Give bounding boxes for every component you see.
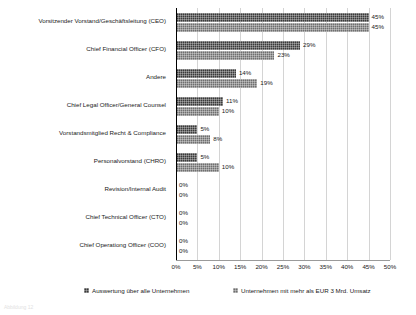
bar-value-label: 19% (257, 78, 272, 88)
bar-value-label: 0% (176, 246, 188, 256)
bar-group-series-0: 0% (176, 237, 390, 246)
legend-item-series-1: Unternehmen mit mehr als EUR 3 Mrd. Umsa… (233, 286, 371, 296)
bar-value-label: 45% (369, 22, 384, 32)
bar-row: 0%0% (176, 207, 390, 235)
bar-value-label: 11% (223, 96, 238, 106)
bar-value-label: 8% (210, 134, 222, 144)
bar-rows: 45%45%29%23%14%19%11%10%5%8%5%10%0%0%0%0… (176, 8, 390, 260)
bar (176, 23, 369, 32)
bar-value-label: 0% (176, 190, 188, 200)
bar-group-series-1: 10% (176, 107, 390, 116)
bar-group-series-0: 0% (176, 209, 390, 218)
legend-label: Auswertung über alle Unternehmen (92, 287, 189, 294)
x-axis-tick-label: 45% (362, 263, 374, 271)
bar-group-series-0: 0% (176, 181, 390, 190)
bar-value-label: 0% (176, 218, 188, 228)
x-axis-tick-label: 35% (320, 263, 332, 271)
x-axis-line (176, 260, 390, 261)
bar-group-series-0: 45% (176, 13, 390, 22)
bar-value-label: 5% (197, 152, 209, 162)
bar-row: 11%10% (176, 95, 390, 123)
bar (176, 13, 369, 22)
bar-row: 0%0% (176, 235, 390, 263)
bar-value-label: 10% (219, 106, 234, 116)
legend-label: Unternehmen mit mehr als EUR 3 Mrd. Umsa… (241, 287, 371, 294)
category-axis-labels: Vorsitzender Vorstand/Geschäftsleitung (… (0, 8, 172, 260)
bar-group-series-0: 14% (176, 69, 390, 78)
bar-row: 5%10% (176, 151, 390, 179)
bar (176, 79, 257, 88)
bar-value-label: 0% (176, 208, 188, 218)
bar-value-label: 0% (176, 236, 188, 246)
x-axis-tick-label: 25% (277, 263, 289, 271)
x-axis-tick-label: 50% (384, 263, 396, 271)
bar-row: 14%19% (176, 67, 390, 95)
figure-caption: Abbildung 12 (4, 304, 33, 311)
bar-group-series-1: 45% (176, 23, 390, 32)
x-axis-tick-label: 0% (172, 263, 181, 271)
bar-group-series-1: 19% (176, 79, 390, 88)
x-axis-tick-label: 15% (234, 263, 246, 271)
legend-swatch-icon (233, 288, 238, 293)
x-axis-tick-label: 5% (193, 263, 202, 271)
bar-group-series-1: 0% (176, 191, 390, 200)
value-axis-line (176, 8, 177, 260)
bar-value-label: 10% (219, 162, 234, 172)
x-axis-tick-label: 30% (298, 263, 310, 271)
x-axis-tick-label: 10% (213, 263, 225, 271)
x-axis: 0%5%10%15%20%25%30%35%40%45%50% (176, 260, 390, 272)
category-label: Vorstandsmitglied Recht & Compliance (0, 129, 166, 137)
bar-group-series-1: 0% (176, 247, 390, 256)
chart-legend: Auswertung über alle Unternehmen Unterne… (0, 286, 416, 298)
bar-value-label: 14% (236, 68, 251, 78)
plot-area: 45%45%29%23%14%19%11%10%5%8%5%10%0%0%0%0… (176, 8, 390, 260)
bar-value-label: 23% (274, 50, 289, 60)
bar-group-series-0: 5% (176, 125, 390, 134)
category-label: Personalvorstand (CHRO) (0, 157, 166, 165)
bar-value-label: 0% (176, 180, 188, 190)
bar-chart: Vorsitzender Vorstand/Geschäftsleitung (… (0, 0, 416, 315)
bar-group-series-1: 8% (176, 135, 390, 144)
bar (176, 107, 219, 116)
bar-row: 29%23% (176, 39, 390, 67)
bar (176, 41, 300, 50)
bar (176, 51, 274, 60)
bar-group-series-1: 10% (176, 163, 390, 172)
category-label: Chief Technical Officer (CTO) (0, 213, 166, 221)
category-label: Revision/Internal Audit (0, 185, 166, 193)
legend-swatch-icon (84, 288, 89, 293)
bar (176, 69, 236, 78)
bar-group-series-0: 5% (176, 153, 390, 162)
bar-value-label: 45% (369, 12, 384, 22)
legend-item-series-0: Auswertung über alle Unternehmen (84, 286, 189, 296)
x-axis-tick-label: 40% (341, 263, 353, 271)
category-label: Chief Financial Officer (CFO) (0, 45, 166, 53)
x-axis-tick-label: 20% (255, 263, 267, 271)
bar (176, 163, 219, 172)
bar (176, 153, 197, 162)
category-label: Andere (0, 73, 166, 81)
bar-row: 45%45% (176, 11, 390, 39)
bar-group-series-1: 23% (176, 51, 390, 60)
bar-group-series-1: 0% (176, 219, 390, 228)
bar (176, 125, 197, 134)
bar (176, 135, 210, 144)
bar-group-series-0: 11% (176, 97, 390, 106)
bar-value-label: 5% (197, 124, 209, 134)
bar-row: 5%8% (176, 123, 390, 151)
bar-group-series-0: 29% (176, 41, 390, 50)
category-label: Chief Legal Officer/General Counsel (0, 101, 166, 109)
bar-row: 0%0% (176, 179, 390, 207)
bar-value-label: 29% (300, 40, 315, 50)
gridline (390, 8, 391, 260)
category-label: Chief Operationg Officer (COO) (0, 241, 166, 249)
category-label: Vorsitzender Vorstand/Geschäftsleitung (… (0, 17, 166, 25)
bar (176, 97, 223, 106)
